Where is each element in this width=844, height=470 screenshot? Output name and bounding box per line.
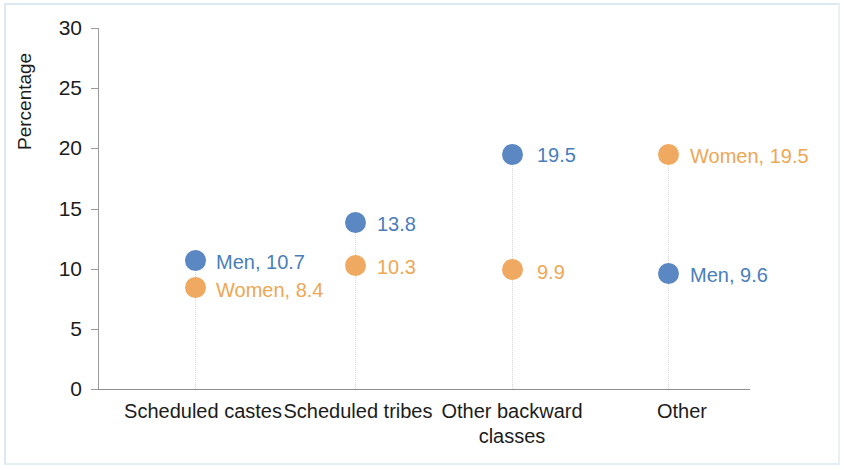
point-women-scheduled-castes[interactable] bbox=[185, 277, 206, 298]
point-men-scheduled-castes[interactable] bbox=[185, 250, 206, 271]
label-women-other-backward-classes: 9.9 bbox=[537, 262, 565, 282]
y-tick-20: 20 bbox=[91, 148, 98, 149]
chart-figure: Percentage 0 5 10 15 20 25 30 Men, 10.7 … bbox=[0, 0, 844, 470]
y-tick-label-30: 30 bbox=[59, 16, 82, 40]
y-tick-label-25: 25 bbox=[59, 76, 82, 100]
label-men-scheduled-tribes: 13.8 bbox=[377, 214, 416, 234]
y-tick-30: 30 bbox=[91, 28, 98, 29]
y-tick-label-15: 15 bbox=[59, 197, 82, 221]
y-tick-label-5: 5 bbox=[70, 317, 82, 341]
label-men-other-backward-classes: 19.5 bbox=[537, 145, 576, 165]
y-tick-5: 5 bbox=[91, 329, 98, 330]
x-category-scheduled-tribes-line1: Scheduled tribes bbox=[284, 399, 433, 424]
x-category-other: Other bbox=[657, 399, 707, 424]
point-men-scheduled-tribes[interactable] bbox=[345, 212, 366, 233]
x-category-other-backward-classes-line2: classes bbox=[441, 424, 582, 449]
point-women-other-backward-classes[interactable] bbox=[502, 259, 523, 280]
y-tick-label-10: 10 bbox=[59, 257, 82, 281]
label-men-scheduled-castes: Men, 10.7 bbox=[216, 252, 305, 272]
point-men-other[interactable] bbox=[658, 263, 679, 284]
point-women-scheduled-tribes[interactable] bbox=[345, 255, 366, 276]
y-tick-15: 15 bbox=[91, 209, 98, 210]
x-axis-line bbox=[98, 389, 750, 390]
point-men-other-backward-classes[interactable] bbox=[502, 144, 523, 165]
stem-scheduled-tribes bbox=[355, 223, 356, 389]
point-women-other[interactable] bbox=[658, 144, 679, 165]
x-category-other-backward-classes-line1: Other backward bbox=[441, 399, 582, 424]
x-category-scheduled-castes-line1: Scheduled castes bbox=[124, 399, 282, 424]
label-men-other: Men, 9.6 bbox=[690, 265, 768, 285]
x-category-other-backward-classes: Other backward classes bbox=[441, 399, 582, 449]
y-tick-0: 0 bbox=[91, 389, 98, 390]
y-tick-label-0: 0 bbox=[70, 377, 82, 401]
x-category-scheduled-castes: Scheduled castes bbox=[124, 399, 282, 424]
y-axis-line bbox=[98, 28, 99, 390]
y-tick-10: 10 bbox=[91, 269, 98, 270]
y-axis-title: Percentage bbox=[14, 53, 36, 150]
y-tick-25: 25 bbox=[91, 88, 98, 89]
figure-border bbox=[4, 3, 840, 465]
label-women-scheduled-castes: Women, 8.4 bbox=[216, 280, 323, 300]
x-category-scheduled-tribes: Scheduled tribes bbox=[284, 399, 433, 424]
x-category-other-line1: Other bbox=[657, 399, 707, 424]
label-women-other: Women, 19.5 bbox=[690, 146, 809, 166]
y-tick-label-20: 20 bbox=[59, 136, 82, 160]
label-women-scheduled-tribes: 10.3 bbox=[377, 257, 416, 277]
